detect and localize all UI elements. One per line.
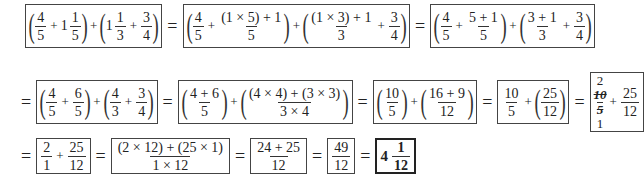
math-text: ) <box>343 85 349 119</box>
math-text: 10 <box>383 86 401 102</box>
expression-step-8-cancellation: 2 10 5 1 + 2512 <box>590 72 644 132</box>
math-text: 3 <box>389 10 400 26</box>
math-text: ) <box>402 85 408 119</box>
final-answer: 4 112 <box>375 138 416 174</box>
math-text: ) <box>560 85 566 119</box>
math-text: 25 <box>541 86 559 102</box>
fraction: 2512 <box>621 86 639 119</box>
math-text: 4 <box>441 10 452 26</box>
math-text: ( <box>434 9 440 43</box>
math-text: 25 <box>621 86 639 102</box>
fraction: 34 <box>141 10 152 43</box>
math-text: ) <box>153 9 159 43</box>
math-text: 1 <box>597 117 604 131</box>
fraction: 105 <box>383 86 401 119</box>
math-text: + <box>90 18 97 34</box>
math-text: 3 <box>110 102 121 119</box>
math-text: 3 <box>136 86 147 102</box>
expression-step-12: 4912 <box>327 138 355 174</box>
fraction: 34 <box>574 10 585 43</box>
fraction: 4912 <box>332 140 350 173</box>
fraction: 45 <box>441 10 452 43</box>
fraction: 4 + 65 <box>188 86 221 119</box>
math-text: 4 <box>35 10 46 26</box>
math-text: 1 <box>41 156 52 173</box>
equals-sign: = <box>167 16 177 37</box>
row-1: ( 45 + 1 15 ) + ( 1 13 + 34 ) = ( 45 + (… <box>25 4 595 48</box>
math-text: 5 <box>246 26 257 43</box>
fraction: 45 <box>46 86 57 119</box>
math-text: ( <box>303 9 309 43</box>
fraction: 65 <box>73 86 84 119</box>
math-text: 12 <box>270 156 288 173</box>
math-text: 3 × 4 <box>278 102 311 119</box>
math-text: ( <box>376 85 382 119</box>
math-text: (4 × 4) + (3 × 3) <box>247 86 342 102</box>
fraction: 21 <box>41 140 52 173</box>
math-text: + <box>208 18 215 34</box>
math-text: + <box>56 148 63 164</box>
math-text: 5 <box>597 102 604 117</box>
math-text: + <box>93 94 100 110</box>
math-text: 4 <box>380 148 388 165</box>
math-text: + <box>563 18 570 34</box>
fraction: (1 × 3) + 13 <box>309 10 373 43</box>
math-text: ( <box>186 9 192 43</box>
equals-sign: = <box>574 92 584 113</box>
math-text: 5 <box>506 102 517 119</box>
math-text: ) <box>148 85 154 119</box>
math-text: (2 × 12) + (25 × 1) <box>116 140 225 156</box>
expression-step-7: 105 + ( 2512 ) <box>497 80 569 124</box>
fraction: 34 <box>389 10 400 43</box>
math-text: ( <box>100 9 106 43</box>
expression-step-3: ( 45 + 5 + 15 ) + ( 3 + 13 + 34 ) <box>430 4 595 48</box>
math-text: 5 <box>70 26 81 43</box>
math-text: 4 <box>141 26 152 43</box>
math-text: + <box>509 18 516 34</box>
equals-sign: = <box>21 146 31 167</box>
math-text: 5 <box>35 26 46 43</box>
math-text: 5 <box>46 102 57 119</box>
expression-step-10: (2 × 12) + (25 × 1)1 × 12 <box>111 138 230 174</box>
math-text: ( <box>519 9 525 43</box>
fraction: (2 × 12) + (25 × 1)1 × 12 <box>116 140 225 173</box>
math-text: + <box>50 18 57 34</box>
expression-step-11: 24 + 2512 <box>250 138 307 174</box>
math-text: ( <box>181 85 187 119</box>
cancelled-fraction: 2 10 5 1 <box>594 74 607 131</box>
math-text: ) <box>500 9 506 43</box>
math-text: ) <box>84 85 90 119</box>
row-2: = ( 45 + 65 ) + ( 43 + 34 ) = ( 4 + 65 )… <box>16 72 644 132</box>
math-text: + <box>524 94 531 110</box>
math-text: ) <box>81 9 87 43</box>
math-text: 3 <box>336 26 347 43</box>
math-text: 12 <box>332 156 350 173</box>
math-text: 5 <box>478 26 489 43</box>
math-text: + <box>410 94 417 110</box>
fraction: (1 × 5) + 15 <box>219 10 283 43</box>
math-text: 4 + 6 <box>188 86 221 102</box>
expression-step-5: ( 4 + 65 ) + ( (4 × 4) + (3 × 3)3 × 4 ) <box>178 80 353 124</box>
math-text: 3 <box>141 10 152 26</box>
fraction: 43 <box>110 86 121 119</box>
math-text: 1 <box>115 10 126 26</box>
math-text: 25 <box>68 140 86 156</box>
math-text: 3 <box>574 10 585 26</box>
fraction: 15 <box>70 10 81 43</box>
math-text: ( <box>29 9 35 43</box>
equals-sign: = <box>358 92 368 113</box>
math-text: 12 <box>438 102 456 119</box>
expression-step-4: ( 45 + 65 ) + ( 43 + 34 ) <box>36 80 157 124</box>
math-text: 1 <box>106 18 113 34</box>
math-text: 4 <box>389 26 400 43</box>
math-text: 1 <box>70 10 81 26</box>
fraction: (4 × 4) + (3 × 3)3 × 4 <box>247 86 342 119</box>
math-text: 10 <box>594 88 607 102</box>
equals-sign: = <box>360 146 370 167</box>
math-text: ) <box>586 9 592 43</box>
math-text: 10 <box>502 86 520 102</box>
math-text: 4 <box>46 86 57 102</box>
math-text: ) <box>468 85 474 119</box>
fraction: 16 + 912 <box>427 86 467 119</box>
math-text: ( <box>103 85 109 119</box>
